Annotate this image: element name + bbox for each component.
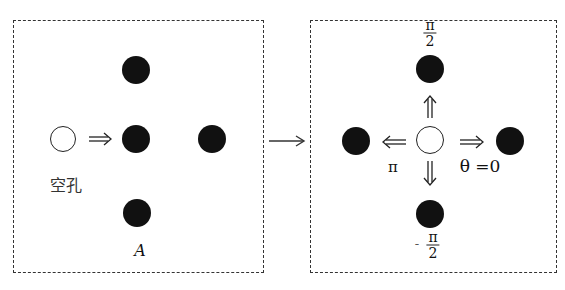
transition-arrow-icon bbox=[269, 136, 304, 146]
atom-right bbox=[496, 127, 524, 155]
double-arrow-left-icon bbox=[383, 136, 406, 148]
angle-left-label: π bbox=[388, 158, 398, 176]
vacancy bbox=[416, 126, 444, 154]
angle-down-label: π 2 bbox=[426, 230, 439, 261]
double-arrow-right-icon bbox=[89, 133, 111, 145]
double-arrow-down-icon bbox=[424, 161, 436, 185]
arrows-layer bbox=[0, 0, 565, 290]
double-arrow-right-icon bbox=[460, 136, 483, 148]
double-arrow-up-icon bbox=[424, 96, 436, 118]
angle-up-label: π 2 bbox=[423, 18, 436, 49]
atom-top bbox=[416, 55, 444, 83]
angle-right-label: θ =0 bbox=[460, 156, 501, 176]
atom-left bbox=[342, 127, 370, 155]
atom-bottom bbox=[416, 200, 444, 228]
angle-down-sign: - bbox=[415, 236, 419, 251]
